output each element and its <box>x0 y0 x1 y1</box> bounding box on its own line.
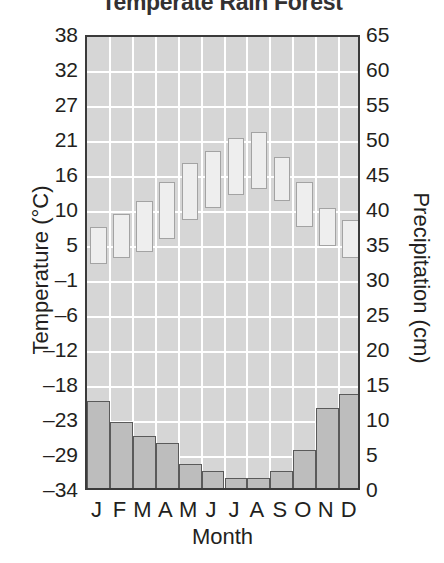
precipitation-tick-0: 0 <box>366 479 444 500</box>
month-label-april: A <box>154 496 177 524</box>
month-label-january: J <box>85 496 108 524</box>
temperature-bar-J-6 <box>228 138 245 195</box>
temperature-bar-F-1 <box>113 214 130 258</box>
y-axis-label-precipitation: Precipitation (cm) <box>408 133 434 423</box>
plot-area <box>85 35 360 490</box>
temperature-tick-27: 27 <box>0 94 78 115</box>
temperature-bar-J-5 <box>205 151 222 208</box>
temperature-bar-J-0 <box>90 227 107 265</box>
month-label-july: J <box>223 496 246 524</box>
month-label-august: A <box>245 496 268 524</box>
temperature-bar-S-8 <box>274 157 291 201</box>
month-label-november: N <box>314 496 337 524</box>
climograph: Temperate Rain Forest 3832272116105–1–6–… <box>0 0 444 563</box>
temperature-bar-M-4 <box>182 163 199 220</box>
month-axis-labels: JFMAMJJASOND <box>85 496 360 524</box>
temperature-bar-O-9 <box>296 182 313 226</box>
temperature-bar-D-11 <box>342 220 359 258</box>
month-label-september: S <box>268 496 291 524</box>
temperature-bar-A-3 <box>159 182 176 239</box>
temperature-range-bars <box>87 37 358 488</box>
y-axis-label-temperature: Temperature (°C) <box>28 125 54 415</box>
temperature-tick-32: 32 <box>0 59 78 80</box>
month-label-december: D <box>337 496 360 524</box>
temperature-tick--29: –29 <box>0 444 78 465</box>
precipitation-tick-65: 65 <box>366 24 444 45</box>
temperature-bar-A-7 <box>251 132 268 189</box>
precipitation-tick-5: 5 <box>366 444 444 465</box>
temperature-bar-N-10 <box>319 208 336 246</box>
month-label-june: J <box>200 496 223 524</box>
month-label-february: F <box>108 496 131 524</box>
temperature-bar-M-2 <box>136 201 153 252</box>
month-label-october: O <box>291 496 314 524</box>
month-label-may: M <box>177 496 200 524</box>
precipitation-tick-55: 55 <box>366 94 444 115</box>
month-label-march: M <box>131 496 154 524</box>
temperature-tick-38: 38 <box>0 24 78 45</box>
temperature-tick--34: –34 <box>0 479 78 500</box>
x-axis-label: Month <box>85 524 360 550</box>
precipitation-tick-60: 60 <box>366 59 444 80</box>
